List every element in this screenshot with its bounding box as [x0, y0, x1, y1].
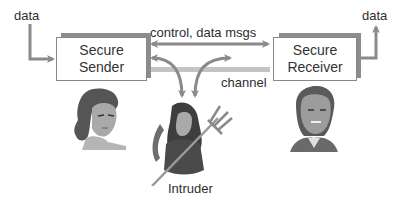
sender-line2: Sender [79, 59, 124, 76]
channel-bar [148, 67, 270, 72]
receiver-line2: Receiver [287, 59, 342, 76]
input-data-label: data [14, 9, 39, 22]
secure-sender-box: Secure Sender [56, 37, 147, 81]
output-data-label: data [362, 9, 387, 22]
channel-label: channel [221, 76, 267, 89]
secure-receiver-box: Secure Receiver [273, 37, 357, 81]
intruder-arrow-left [152, 58, 182, 96]
man-portrait-icon [286, 86, 344, 156]
intruder-devil-icon [148, 100, 238, 186]
messages-label: control, data msgs [150, 26, 256, 39]
sender-line1: Secure [79, 42, 124, 59]
woman-portrait-icon [64, 86, 130, 156]
input-arrow [30, 24, 53, 59]
receiver-line1: Secure [287, 42, 342, 59]
